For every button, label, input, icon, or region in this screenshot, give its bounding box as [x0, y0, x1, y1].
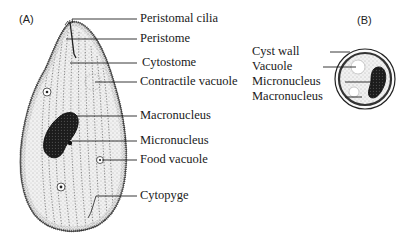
label-cyst-vacuole: Vacuole: [252, 60, 292, 73]
cyst: [335, 49, 395, 109]
label-peristome: Peristome: [140, 32, 190, 45]
label-food-vacuole: Food vacuole: [140, 153, 208, 166]
label-cyst-macronucleus: Macronucleus: [252, 90, 323, 103]
label-contractile-vacuole: Contractile vacuole: [140, 75, 238, 88]
label-micronucleus: Micronucleus: [140, 134, 209, 147]
label-peristomal-cilia: Peristomal cilia: [140, 12, 218, 25]
label-cytopyge: Cytopyge: [140, 189, 189, 202]
label-cytostome: Cytostome: [142, 56, 196, 69]
panel-a-label: (A): [19, 13, 34, 25]
label-macronucleus: Macronucleus: [140, 109, 211, 122]
panel-b-label: (B): [357, 14, 372, 26]
label-cyst-micronucleus: Micronucleus: [252, 75, 321, 88]
micronucleus-shape: [68, 141, 72, 145]
label-cyst-wall: Cyst wall: [252, 45, 300, 58]
